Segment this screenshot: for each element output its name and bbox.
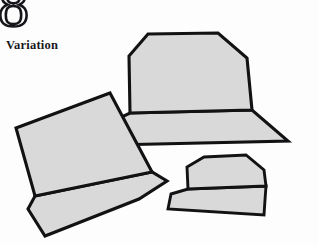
large-hat-crown [129,33,252,113]
small-hat-brim [168,186,266,215]
hats-svg [0,0,318,245]
large-hat [111,33,288,145]
small-hat-crown [187,155,266,189]
three-hats-illustration [0,0,318,245]
large-hat-brim [111,110,288,145]
illustration-page: 8 Variation [0,0,318,245]
small-hat [168,155,266,215]
